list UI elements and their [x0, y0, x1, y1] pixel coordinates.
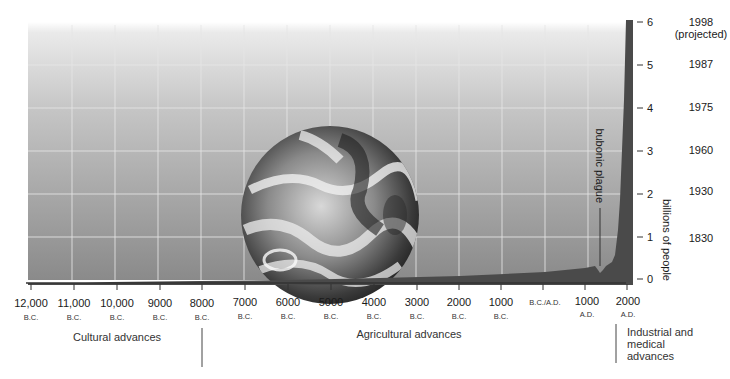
era-label-cultural: Cultural advances — [73, 331, 162, 343]
y-tick-label: 0 — [647, 273, 653, 285]
x-tick-sublabel: B.C. — [153, 313, 168, 322]
population-chart: 12,000 B.C. 11,000 B.C. 10,000 B.C. 9000… — [0, 0, 730, 379]
x-tick-sublabel: B.C. — [67, 313, 82, 322]
y-tick-label: 6 — [647, 16, 653, 28]
y-tick-label: 4 — [647, 102, 653, 114]
x-tick-label: 1000 — [575, 295, 599, 307]
era-label-industrial-line2: medical — [627, 338, 665, 350]
x-axis-labels: 12,000 B.C. 11,000 B.C. 10,000 B.C. 9000… — [14, 295, 640, 322]
x-tick-sublabel: B.C. — [281, 312, 296, 321]
x-tick-label: 11,000 — [58, 297, 91, 309]
x-tick-sublabel: A.D. — [621, 310, 636, 319]
era-label-industrial-line1: Industrial and — [627, 326, 693, 338]
y-axis-title: billions of people — [661, 199, 673, 281]
milestone-year: 1987 — [689, 58, 713, 70]
x-tick-label: 2000 — [447, 296, 471, 308]
x-tick-sublabel: B.C. — [110, 313, 125, 322]
x-tick-label: 10,000 — [100, 297, 134, 309]
x-tick-label: 6000 — [276, 296, 300, 308]
x-tick-label: 1000 — [489, 296, 513, 308]
y-tick-label: 5 — [647, 59, 653, 71]
x-tick-sublabel: B.C. — [494, 312, 509, 321]
y-axis-labels: 0 1 2 3 4 5 6 — [647, 16, 653, 285]
x-tick-sublabel: B.C. — [24, 313, 39, 322]
milestone-year: 1830 — [689, 232, 713, 244]
x-tick-sublabel: B.C. — [238, 312, 253, 321]
y-tick-label: 1 — [647, 231, 653, 243]
milestone-year: 1998 — [689, 16, 713, 28]
earth-image — [241, 126, 420, 304]
x-tick-label: 12,000 — [14, 297, 48, 309]
milestone-year: 1930 — [689, 185, 713, 197]
y-tick-label: 2 — [647, 188, 653, 200]
x-tick-sublabel: B.C. — [410, 312, 425, 321]
projected-note: (projected) — [675, 28, 728, 40]
x-tick-label: 2000 — [616, 295, 640, 307]
era-label-agricultural: Agricultural advances — [356, 328, 462, 340]
x-tick-label: 9000 — [148, 297, 172, 309]
annotation-bubonic-plague: bubonic plague — [594, 128, 606, 203]
milestone-year: 1975 — [689, 101, 713, 113]
x-tick-sublabel: A.D. — [580, 310, 595, 319]
x-tick-label: 3000 — [405, 296, 429, 308]
x-tick-label: 4000 — [362, 296, 386, 308]
x-tick-label: 7000 — [233, 296, 257, 308]
y-axis-ticks — [637, 22, 643, 279]
milestone-years: 1830 1930 1960 1975 1987 1998 (projected… — [675, 16, 728, 244]
x-tick-label: 8000 — [190, 297, 214, 309]
x-tick-sublabel: B.C. — [195, 313, 210, 322]
y-tick-label: 3 — [647, 145, 653, 157]
x-tick-label: B.C./A.D. — [529, 298, 560, 307]
x-tick-sublabel: B.C. — [324, 312, 339, 321]
x-tick-sublabel: B.C. — [452, 312, 467, 321]
x-tick-sublabel: B.C. — [367, 312, 382, 321]
milestone-year: 1960 — [689, 144, 713, 156]
x-tick-label: 5000 — [319, 296, 343, 308]
era-label-industrial-line3: advances — [627, 350, 675, 362]
